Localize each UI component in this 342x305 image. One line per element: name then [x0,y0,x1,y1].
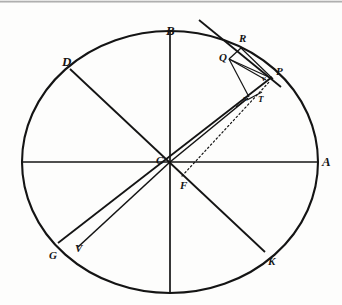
geometric-figure: A B C D F G K P Q R T V v x [0,0,342,305]
ray-C-to-x [170,98,248,162]
point-label-V: V [75,243,82,254]
point-label-T: T [258,95,264,104]
diameter-GP [58,77,272,243]
point-label-A: A [322,155,331,168]
point-label-G: G [49,250,57,261]
point-label-C: C [156,155,163,166]
point-label-P: P [276,66,283,77]
point-label-v-lower: v [262,75,266,83]
point-label-K: K [268,256,275,267]
point-label-F: F [180,180,187,191]
point-label-B: B [166,24,175,37]
point-label-x-lower: x [243,95,247,103]
radius-CV [78,162,170,247]
diameter-DK [70,69,265,252]
point-label-R: R [239,33,246,44]
point-label-Q: Q [219,52,227,63]
point-label-D: D [62,55,71,68]
